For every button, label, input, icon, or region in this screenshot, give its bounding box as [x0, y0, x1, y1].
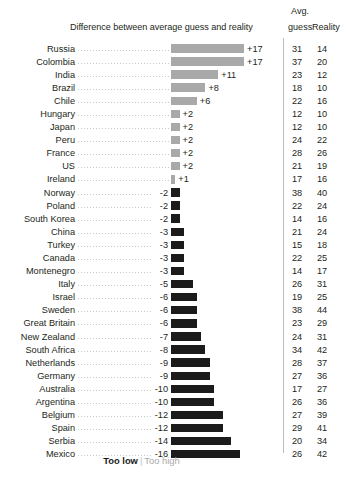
- row-bar: [171, 358, 210, 366]
- row-difference-label: -3: [146, 240, 168, 250]
- row-leader-line: [78, 102, 171, 103]
- row-avg-guess-value: 24: [288, 332, 306, 342]
- row-avg-guess-value: 14: [288, 214, 306, 224]
- chart-title: Difference between average guess and rea…: [70, 22, 253, 32]
- row-country-label: France: [46, 148, 75, 158]
- row-difference-label: -3: [146, 227, 168, 237]
- row-country-label: Italy: [58, 279, 75, 289]
- row-bar: [171, 398, 214, 406]
- chart-row: Hungary+21210: [0, 107, 342, 120]
- row-difference-label: +8: [208, 83, 218, 93]
- row-country-label: Germany: [37, 371, 75, 381]
- row-difference-label: -14: [146, 436, 168, 446]
- row-country-label: Norway: [44, 188, 75, 198]
- chart-row: Norway-23840: [0, 186, 342, 199]
- row-bar: [171, 306, 197, 314]
- row-leader-line: [78, 364, 152, 365]
- row-avg-guess-value: 17: [288, 384, 306, 394]
- row-leader-line: [78, 338, 152, 339]
- row-bar: [171, 254, 184, 262]
- row-difference-label: -9: [146, 371, 168, 381]
- legend-too-low: Too low: [103, 455, 138, 466]
- row-leader-line: [78, 63, 171, 64]
- chart-row: Great Britain-62329: [0, 317, 342, 330]
- row-avg-guess-value: 29: [288, 423, 306, 433]
- row-reality-value: 40: [312, 188, 332, 198]
- chart-row: Germany-92736: [0, 369, 342, 382]
- row-avg-guess-value: 22: [288, 96, 306, 106]
- row-country-label: Brazil: [52, 83, 75, 93]
- row-bar: [171, 175, 175, 183]
- row-reality-value: 10: [312, 122, 332, 132]
- row-country-label: Belgium: [42, 410, 75, 420]
- row-country-label: Ireland: [47, 174, 75, 184]
- row-difference-label: -6: [146, 305, 168, 315]
- chart-row: Brazil+81810: [0, 81, 342, 94]
- row-avg-guess-value: 19: [288, 292, 306, 302]
- row-avg-guess-value: 28: [288, 358, 306, 368]
- chart-legend: Too low|Too high: [0, 455, 283, 466]
- chart-row: Colombia+173720: [0, 55, 342, 68]
- row-avg-guess-value: 34: [288, 345, 306, 355]
- row-country-label: US: [62, 161, 75, 171]
- row-avg-guess-value: 21: [288, 227, 306, 237]
- row-bar: [171, 214, 180, 222]
- row-leader-line: [78, 89, 171, 90]
- row-country-label: Sweden: [42, 305, 75, 315]
- row-difference-label: -3: [146, 266, 168, 276]
- row-avg-guess-value: 37: [288, 57, 306, 67]
- chart-row: Poland-22224: [0, 199, 342, 212]
- row-leader-line: [78, 141, 171, 142]
- row-bar: [171, 385, 214, 393]
- row-bar: [171, 228, 184, 236]
- row-difference-label: +1: [178, 174, 188, 184]
- row-country-label: Canada: [43, 253, 75, 263]
- chart-rows: Russia+173114Colombia+173720India+112312…: [0, 42, 342, 461]
- row-country-label: New Zealand: [21, 332, 75, 342]
- row-country-label: Argentina: [36, 397, 75, 407]
- row-difference-label: -8: [146, 345, 168, 355]
- row-leader-line: [78, 207, 152, 208]
- row-difference-label: +6: [200, 96, 210, 106]
- row-avg-guess-value: 18: [288, 83, 306, 93]
- row-reality-value: 26: [312, 148, 332, 158]
- row-reality-value: 34: [312, 436, 332, 446]
- row-avg-guess-value: 12: [288, 122, 306, 132]
- row-bar: [171, 332, 201, 340]
- row-leader-line: [78, 351, 152, 352]
- row-avg-guess-value: 23: [288, 70, 306, 80]
- row-country-label: Montenegro: [26, 266, 75, 276]
- row-reality-value: 31: [312, 332, 332, 342]
- row-bar: [171, 70, 218, 78]
- row-avg-guess-value: 20: [288, 436, 306, 446]
- chart-row: Spain-122941: [0, 422, 342, 435]
- row-leader-line: [78, 76, 171, 77]
- chart-row: Italy-52631: [0, 278, 342, 291]
- row-country-label: Netherlands: [25, 358, 75, 368]
- chart-row: Belgium-122739: [0, 409, 342, 422]
- chart-row: Sweden-63844: [0, 304, 342, 317]
- chart-row: France+22826: [0, 147, 342, 160]
- row-difference-label: -3: [146, 253, 168, 263]
- row-bar: [171, 83, 205, 91]
- row-difference-label: -6: [146, 292, 168, 302]
- row-country-label: Great Britain: [23, 318, 75, 328]
- chart-row: New Zealand-72431: [0, 330, 342, 343]
- row-reality-value: 19: [312, 161, 332, 171]
- row-reality-value: 17: [312, 266, 332, 276]
- row-difference-label: +17: [247, 44, 263, 54]
- chart-row: Netherlands-92837: [0, 356, 342, 369]
- row-leader-line: [78, 128, 171, 129]
- row-leader-line: [78, 259, 152, 260]
- row-avg-guess-value: 26: [288, 279, 306, 289]
- row-avg-guess-value: 31: [288, 44, 306, 54]
- row-country-label: South Africa: [25, 345, 75, 355]
- row-reality-value: 12: [312, 70, 332, 80]
- row-bar: [171, 110, 180, 118]
- row-country-label: Japan: [50, 122, 75, 132]
- row-leader-line: [78, 246, 152, 247]
- row-country-label: Australia: [39, 384, 75, 394]
- row-reality-value: 20: [312, 57, 332, 67]
- row-avg-guess-value: 28: [288, 148, 306, 158]
- legend-too-high: Too high: [144, 455, 179, 466]
